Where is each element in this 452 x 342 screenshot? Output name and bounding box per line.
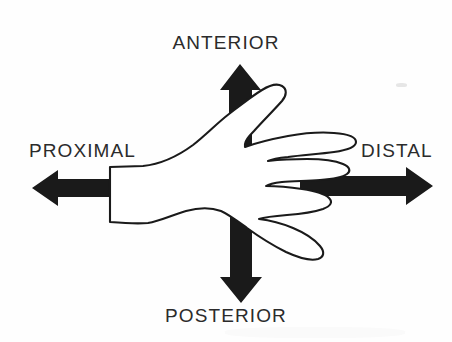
label-distal: DISTAL [361, 141, 433, 160]
anatomical-direction-diagram: ANTERIOR POSTERIOR PROXIMAL DISTAL [0, 0, 452, 342]
label-proximal: PROXIMAL [29, 141, 136, 160]
label-posterior: POSTERIOR [0, 306, 452, 325]
label-anterior: ANTERIOR [0, 33, 452, 52]
